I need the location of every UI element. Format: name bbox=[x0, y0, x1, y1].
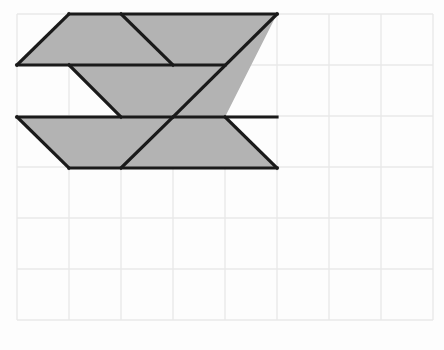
geometry-figure-svg bbox=[0, 0, 444, 350]
figure-canvas bbox=[0, 0, 444, 350]
